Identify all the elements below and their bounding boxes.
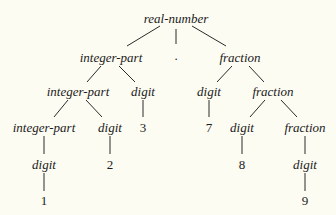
node-terminal-8: 8 <box>239 158 246 171</box>
edge <box>86 100 102 117</box>
edge <box>192 26 226 46</box>
node-integer-part: integer-part <box>80 51 143 64</box>
tree-edges <box>0 0 336 215</box>
edge <box>127 26 160 46</box>
node-integer-part: integer-part <box>13 121 76 134</box>
node-digit: digit <box>131 85 155 98</box>
node-terminal-2: 2 <box>107 158 114 171</box>
node-fraction: fraction <box>252 85 293 98</box>
node-real-number: real-number <box>144 12 209 25</box>
node-terminal-1: 1 <box>41 194 48 207</box>
edge <box>217 66 232 82</box>
node-fraction: fraction <box>219 51 260 64</box>
edge <box>54 100 68 117</box>
node-digit: digit <box>98 121 122 134</box>
node-integer-part: integer-part <box>47 85 110 98</box>
edge <box>119 66 135 82</box>
node-terminal-3: 3 <box>140 121 147 134</box>
node-digit: digit <box>197 85 221 98</box>
node-terminal-9: 9 <box>302 194 309 207</box>
node-digit: digit <box>230 121 254 134</box>
node-terminal-7: 7 <box>206 121 213 134</box>
node-fraction: fraction <box>284 121 325 134</box>
node-digit: digit <box>32 158 56 171</box>
edge <box>249 66 264 82</box>
edge <box>87 66 101 82</box>
edge <box>281 100 297 117</box>
node-digit: digit <box>293 158 317 171</box>
edge <box>250 100 265 117</box>
node-decimal-point: . <box>174 49 177 62</box>
